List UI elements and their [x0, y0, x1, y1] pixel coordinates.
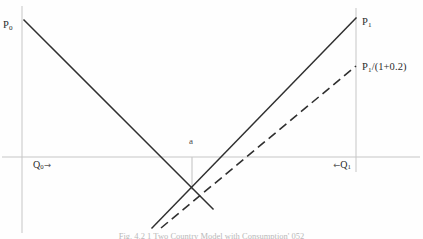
- plot-canvas: [0, 0, 423, 239]
- plot-background: [0, 0, 423, 239]
- label-p1: P1: [362, 17, 372, 28]
- label-q1-subscript: 1: [348, 163, 352, 170]
- label-p1-discounted-subscript: 1: [368, 66, 372, 74]
- q0-arrow-icon: →: [44, 160, 51, 170]
- label-p1-discounted: P1/(1+0.2): [362, 62, 407, 73]
- label-p0-subscript: 0: [9, 24, 13, 32]
- label-point-a: a: [189, 137, 193, 146]
- figure-caption: Fig. 4.2 1 Two Country Model with Consum…: [0, 231, 423, 239]
- label-q0: Q0→: [33, 160, 51, 170]
- label-p1-subscript: 1: [368, 21, 372, 29]
- economics-figure: P0 P1 P1/(1+0.2) a Q0→ ←Q1 Fig. 4.2 1 Tw…: [0, 0, 423, 239]
- label-q0-subscript: 0: [40, 163, 44, 170]
- label-p1-discounted-expression: /(1+0.2): [372, 61, 407, 72]
- label-q1: ←Q1: [333, 160, 351, 170]
- label-p0: P0: [3, 20, 13, 31]
- label-q1-letter: Q: [340, 159, 347, 170]
